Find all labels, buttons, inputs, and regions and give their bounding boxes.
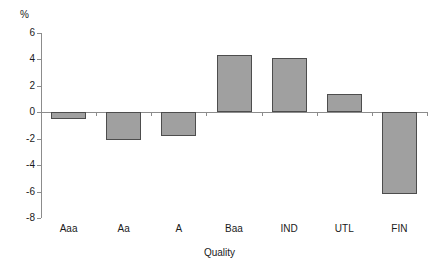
y-axis-tick-mark [37, 165, 41, 166]
x-axis-category-label: FIN [359, 222, 439, 235]
y-axis-tick-label: -6 [26, 185, 35, 198]
x-axis-tick-mark [427, 112, 428, 116]
y-axis-tick-label: 4 [29, 52, 35, 65]
x-axis-tick-mark [317, 112, 318, 116]
y-axis-tick-mark [37, 139, 41, 140]
y-axis-tick-mark [37, 33, 41, 34]
bar [272, 58, 307, 112]
y-axis-tick-label: 2 [29, 79, 35, 92]
y-axis-tick-label: 6 [29, 26, 35, 39]
y-axis-unit-label: % [20, 9, 29, 21]
bar [382, 112, 417, 194]
bar [161, 112, 196, 136]
y-axis-tick-mark [37, 59, 41, 60]
x-axis-tick-mark [372, 112, 373, 116]
x-axis-zero-line [41, 112, 427, 113]
y-axis-tick-mark [37, 218, 41, 219]
x-axis-tick-mark [96, 112, 97, 116]
bar [327, 94, 362, 113]
y-axis-tick-mark [37, 192, 41, 193]
bar [217, 55, 252, 112]
bar [106, 112, 141, 140]
x-axis-tick-mark [206, 112, 207, 116]
x-axis-tick-mark [151, 112, 152, 116]
bar-chart: % 6420-2-4-6-8 AaaAaABaaINDUTLFIN Qualit… [0, 0, 439, 269]
x-axis-title: Quality [0, 246, 439, 259]
y-axis-tick-mark [37, 86, 41, 87]
x-axis-tick-mark [41, 112, 42, 116]
plot-area: 6420-2-4-6-8 [41, 33, 427, 218]
y-axis-tick-label: 0 [29, 105, 35, 118]
x-axis-tick-mark [262, 112, 263, 116]
y-axis-tick-label: -4 [26, 158, 35, 171]
bar [51, 112, 86, 119]
y-axis-tick-label: -2 [26, 132, 35, 145]
y-axis-line [41, 33, 42, 218]
